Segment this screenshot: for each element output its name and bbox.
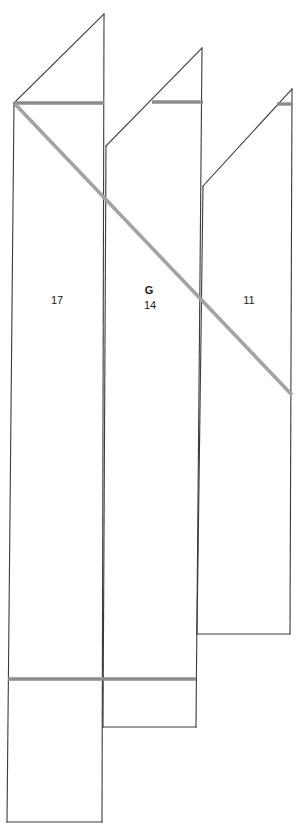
panel-3-group <box>197 89 292 634</box>
panel-2-slope-edge <box>106 48 202 146</box>
panel-3-right-edge <box>290 89 292 634</box>
panel-1-left-edge <box>7 103 14 822</box>
panel-3-number-label: 11 <box>243 294 254 306</box>
panel-2-group <box>103 48 202 727</box>
panel-1-number-label: 17 <box>51 294 63 306</box>
panel-1-group <box>7 14 104 822</box>
panel-2-letter-label: G <box>145 284 154 296</box>
sawtooth-panel-diagram: 17 G 14 11 <box>0 0 302 836</box>
diagram-canvas: 17 G 14 11 <box>0 0 302 836</box>
panel-1-slope-edge <box>14 14 104 103</box>
section-cut-diagonal <box>15 104 292 395</box>
panel-2-number-label: 14 <box>144 299 156 311</box>
gray-segments-group <box>8 102 293 679</box>
